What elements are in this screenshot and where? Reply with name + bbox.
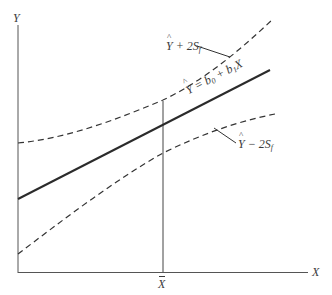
upper-label-leader [197,46,230,57]
y-axis-label: Y [13,12,20,24]
x-mean-label: X [158,278,165,290]
x-axis-label: X [312,266,319,278]
regression-diagram: Y X X Y + 2Sf Y = b0 + b1X Y − 2Sf [0,0,332,295]
lower-band-curve [18,114,275,254]
lower-label-leader [214,128,236,143]
lower-band-label: Y − 2Sf [238,138,273,152]
upper-band-label: Y + 2Sf [166,40,201,54]
regression-line [18,70,270,199]
